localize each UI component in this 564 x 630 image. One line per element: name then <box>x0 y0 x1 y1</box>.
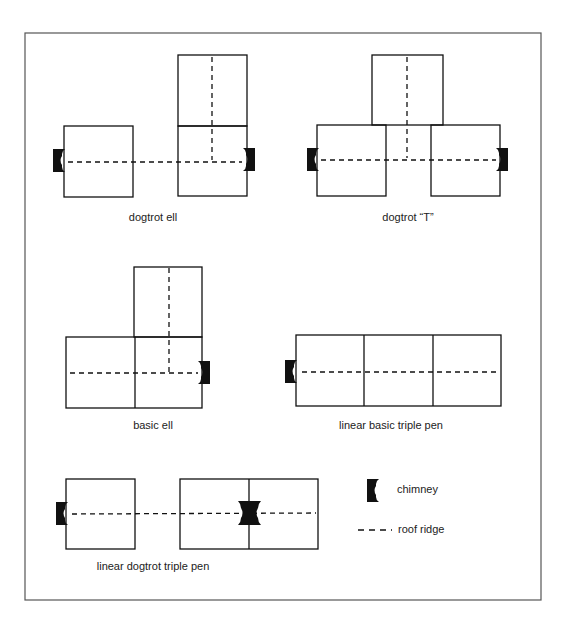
plan-label-linear-basic-triple-pen: linear basic triple pen <box>339 419 443 431</box>
plan-dogtrot-ell <box>64 55 247 197</box>
legend-chimney-label: chimney <box>397 483 438 495</box>
plan-label-dogtrot-t: dogtrot “T” <box>382 211 433 223</box>
plan-label-basic-ell: basic ell <box>133 419 173 431</box>
plan-basic-ell <box>66 267 202 408</box>
chimney-icon <box>198 361 210 384</box>
chimney-icon <box>53 149 65 172</box>
floor-plan-diagram <box>0 0 564 630</box>
chimney-icon <box>238 501 261 525</box>
chimney-icon <box>367 479 379 502</box>
plan-label-linear-dogtrot-triple-pen: linear dogtrot triple pen <box>97 560 210 572</box>
plan-label-dogtrot-ell: dogtrot ell <box>129 211 177 223</box>
plan-linear-dogtrot-triple-pen <box>66 479 318 549</box>
legend-roof-ridge-label: roof ridge <box>398 523 444 535</box>
chimney-icon <box>285 360 297 383</box>
figure-frame <box>25 33 541 600</box>
chimney-icon <box>243 148 255 171</box>
plan-dogtrot-t <box>317 55 500 196</box>
chimney-icon <box>496 148 508 171</box>
plan-linear-basic-triple-pen <box>296 335 501 406</box>
